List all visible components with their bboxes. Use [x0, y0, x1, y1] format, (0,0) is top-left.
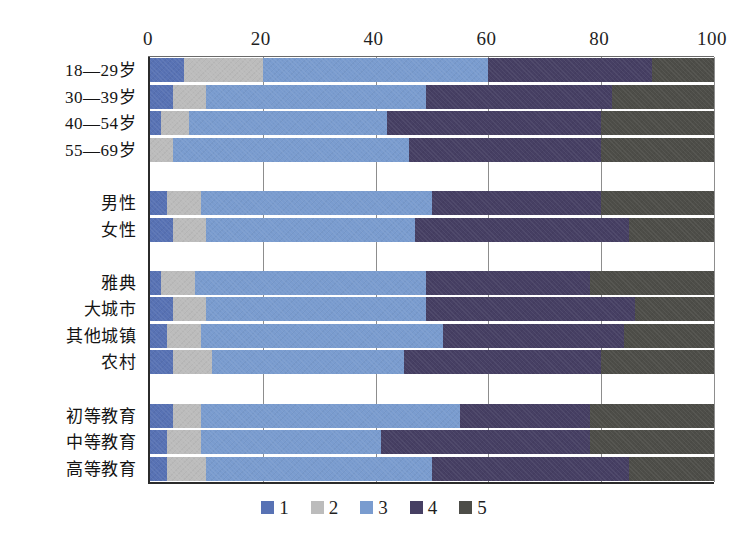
bar-segment-series-5 — [652, 58, 714, 82]
bar-segment-series-3 — [201, 404, 460, 428]
bar-segment-series-1 — [150, 430, 167, 454]
bar-segment-series-1 — [150, 58, 184, 82]
x-tick-label-100: 100 — [697, 28, 727, 50]
x-axis-tick-labels: 020406080100 — [0, 28, 748, 52]
bar-segment-series-5 — [601, 138, 714, 162]
bar-row — [150, 218, 714, 242]
category-label: 40—54岁 — [65, 115, 136, 132]
legend-label: 1 — [279, 498, 289, 517]
legend-label: 2 — [329, 498, 339, 517]
bar-segment-series-2 — [173, 350, 212, 374]
legend-item-2: 2 — [311, 498, 339, 517]
gridline-100 — [714, 57, 715, 482]
legend-swatch-icon-1 — [261, 501, 274, 514]
bar-segment-series-4 — [381, 430, 590, 454]
bar-segment-series-3 — [173, 138, 410, 162]
bar-segment-series-1 — [150, 191, 167, 215]
bar-row — [150, 404, 714, 428]
bar-segment-series-2 — [167, 430, 201, 454]
bar-segment-series-5 — [624, 324, 714, 348]
plot-area — [148, 57, 714, 484]
bar-segment-series-2 — [167, 191, 201, 215]
bar-segment-series-5 — [590, 404, 714, 428]
bar-segment-series-2 — [150, 138, 173, 162]
bar-segment-series-3 — [263, 58, 489, 82]
legend-label: 4 — [428, 498, 438, 517]
bar-row — [150, 350, 714, 374]
legend-item-4: 4 — [410, 498, 438, 517]
legend-item-3: 3 — [360, 498, 388, 517]
bar-row — [150, 271, 714, 295]
bar-segment-series-2 — [167, 457, 206, 481]
bar-segment-series-4 — [409, 138, 601, 162]
bar-segment-series-1 — [150, 85, 173, 109]
bar-segment-series-3 — [212, 350, 404, 374]
bar-row — [150, 324, 714, 348]
bar-segment-series-5 — [635, 297, 714, 321]
x-tick-label-80: 80 — [589, 28, 609, 50]
bar-segment-series-2 — [173, 297, 207, 321]
bar-segment-series-5 — [601, 191, 714, 215]
bar-segment-series-2 — [161, 111, 189, 135]
category-label: 其他城镇 — [66, 328, 136, 345]
x-tick-label-40: 40 — [364, 28, 384, 50]
bar-segment-series-1 — [150, 324, 167, 348]
bar-segment-series-4 — [387, 111, 601, 135]
bar-segment-series-3 — [206, 457, 432, 481]
legend-item-5: 5 — [459, 498, 487, 517]
bar-segment-series-2 — [173, 85, 207, 109]
bar-segment-series-4 — [460, 404, 590, 428]
category-label: 55—69岁 — [65, 142, 136, 159]
category-label: 雅典 — [101, 275, 136, 292]
category-label: 男性 — [101, 195, 136, 212]
legend-swatch-icon-5 — [459, 501, 472, 514]
bar-segment-series-5 — [601, 111, 714, 135]
bar-segment-series-3 — [195, 271, 426, 295]
bar-row — [150, 430, 714, 454]
x-tick-label-0: 0 — [143, 28, 153, 50]
x-tick-label-20: 20 — [251, 28, 271, 50]
category-label: 中等教育 — [66, 434, 136, 451]
x-tick-label-60: 60 — [476, 28, 496, 50]
bar-segment-series-1 — [150, 111, 161, 135]
bar-segment-series-2 — [184, 58, 263, 82]
bar-segment-series-2 — [173, 404, 201, 428]
bar-row — [150, 457, 714, 481]
bar-segment-series-4 — [443, 324, 623, 348]
legend-item-1: 1 — [261, 498, 289, 517]
bar-segment-series-2 — [173, 218, 207, 242]
bar-segment-series-3 — [206, 297, 426, 321]
bar-row — [150, 138, 714, 162]
bar-segment-series-1 — [150, 271, 161, 295]
bar-segment-series-5 — [590, 430, 714, 454]
bar-row — [150, 111, 714, 135]
category-label: 高等教育 — [66, 461, 136, 478]
bar-segment-series-5 — [629, 218, 714, 242]
bar-row — [150, 191, 714, 215]
bar-segment-series-1 — [150, 457, 167, 481]
bar-row — [150, 297, 714, 321]
category-label: 初等教育 — [66, 408, 136, 425]
bar-segment-series-4 — [426, 297, 635, 321]
category-label: 大城市 — [84, 301, 137, 318]
legend-label: 3 — [378, 498, 388, 517]
bar-row — [150, 58, 714, 82]
bar-segment-series-3 — [201, 324, 444, 348]
bar-segment-series-2 — [167, 324, 201, 348]
bar-segment-series-4 — [415, 218, 629, 242]
bar-segment-series-1 — [150, 404, 173, 428]
stacked-bar-chart: 020406080100 18—29岁30—39岁40—54岁55—69岁男性女… — [0, 0, 748, 543]
bar-segment-series-3 — [206, 218, 415, 242]
bar-segment-series-3 — [201, 191, 432, 215]
bar-segment-series-4 — [426, 271, 590, 295]
bar-segment-series-1 — [150, 218, 173, 242]
bar-segment-series-1 — [150, 350, 173, 374]
bar-segment-series-5 — [629, 457, 714, 481]
legend-swatch-icon-3 — [360, 501, 373, 514]
category-labels: 18—29岁30—39岁40—54岁55—69岁男性女性雅典大城市其他城镇农村初… — [0, 57, 142, 482]
chart-legend: 12345 — [0, 498, 748, 517]
bar-segment-series-3 — [201, 430, 381, 454]
bar-segment-series-4 — [404, 350, 601, 374]
bar-segment-series-5 — [612, 85, 714, 109]
category-label: 女性 — [101, 222, 136, 239]
